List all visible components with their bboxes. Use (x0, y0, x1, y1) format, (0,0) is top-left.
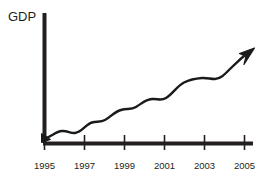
gdp-growth-chart: GDP 1995 1997 1999 2001 2003 2005 (0, 0, 271, 181)
y-axis-title: GDP (8, 9, 36, 24)
x-tick-label-1997: 1997 (74, 160, 95, 171)
x-tick-label-1999: 1999 (114, 160, 135, 171)
x-tick-label-2001: 2001 (154, 160, 175, 171)
chart-background (0, 0, 271, 181)
x-tick-label-2005: 2005 (234, 160, 255, 171)
x-tick-label-2003: 2003 (194, 160, 215, 171)
chart-canvas: GDP 1995 1997 1999 2001 2003 2005 (0, 0, 271, 181)
x-tick-label-1995: 1995 (34, 160, 55, 171)
